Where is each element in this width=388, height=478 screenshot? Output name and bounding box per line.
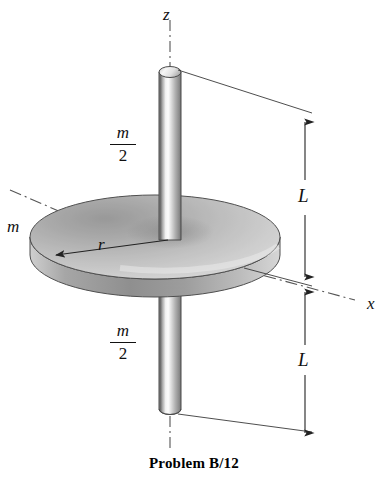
axis-x-label: x	[367, 295, 375, 312]
figure-caption: Problem B/12	[0, 455, 388, 472]
upper-length-label: L	[298, 186, 309, 205]
upper-rod	[159, 67, 181, 241]
lower-rod-mass-numerator: m	[110, 322, 136, 341]
axis-z-label: z	[163, 6, 170, 23]
lower-rod-mass-denominator: 2	[110, 344, 136, 363]
figure-drawing	[0, 0, 388, 478]
lower-rod-mass-label: m 2	[110, 322, 136, 363]
upper-rod-mass-numerator: m	[110, 124, 136, 143]
disk	[30, 195, 280, 297]
lower-length-label: L	[298, 350, 309, 369]
physics-figure: z x m r m 2 m 2 L L Problem B/12	[0, 0, 388, 478]
disk-radius-label: r	[98, 236, 105, 253]
upper-rod-mass-label: m 2	[110, 124, 136, 165]
upper-rod-mass-denominator: 2	[110, 146, 136, 165]
fraction-bar	[110, 144, 136, 145]
disk-mass-label: m	[7, 218, 19, 235]
fraction-bar	[110, 342, 136, 343]
